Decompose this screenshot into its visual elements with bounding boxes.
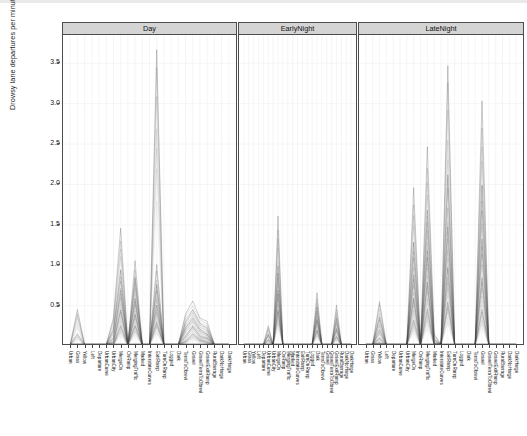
x-axis-tick-mark [322, 345, 323, 348]
x-axis-tick-mark [509, 345, 510, 348]
x-axis-tick-mark [128, 345, 129, 348]
x-axis-tick-label: Marked [431, 351, 436, 366]
x-axis-tick-label: MergeOn [275, 351, 280, 370]
x-axis-tick-mark [327, 345, 328, 348]
x-axis-tick-mark [178, 345, 179, 348]
x-axis-tick-mark [455, 345, 456, 348]
x-axis-tick-mark [393, 345, 394, 348]
x-axis-tick-mark [259, 345, 260, 348]
x-axis-tick-mark [496, 345, 497, 348]
x-axis-tick-mark [249, 345, 250, 348]
x-axis-tick-mark [475, 345, 476, 348]
lattice-panel-plot: Drowsy lane departures per minute 0.51.0… [0, 0, 527, 436]
x-axis-tick-label: GravelTerraToObrevi [486, 351, 491, 393]
y-axis-tick-label: 0.5 [26, 301, 60, 308]
x-axis-tick-mark [468, 345, 469, 348]
panel-latenight: LateNight [358, 22, 524, 345]
x-axis-tick-mark [307, 345, 308, 348]
x-axis-tick-label: Dark [314, 351, 319, 361]
x-axis-tick-label: Left [89, 351, 94, 359]
x-axis-tick-label: Yellow [377, 351, 382, 364]
x-axis-tick-mark [113, 345, 114, 348]
x-axis-tick-mark [283, 345, 284, 348]
x-axis-tick-mark [441, 345, 442, 348]
x-axis-tick-label: OnRamp [280, 351, 285, 369]
x-axis-tick-label: TerraToObrevi [183, 351, 188, 380]
x-axis-tick-label: Urban [67, 351, 72, 364]
x-axis-tick-label: DarkHarge [348, 351, 353, 373]
x-axis-tick-label: Marked [139, 351, 144, 366]
x-axis-tick-mark [332, 345, 333, 348]
window-top-edge [0, 0, 527, 3]
x-axis-tick-mark [503, 345, 504, 348]
x-axis-tick-mark [448, 345, 449, 348]
x-axis-tick-mark [278, 345, 279, 348]
x-axis-tick-label: MergingTraffic [425, 351, 430, 380]
x-axis-tick-mark [373, 345, 374, 348]
x-axis-tick-mark [99, 345, 100, 348]
panel-earlynight: EarlyNight [238, 22, 357, 345]
x-axis-tick-label: Gravel [479, 351, 484, 365]
x-axis-tick-label: UrbanCurve [103, 351, 108, 376]
x-axis-tick-mark [414, 345, 415, 348]
panel-svg [239, 35, 356, 344]
x-axis-tick-label: GravelTerraToObrevi [197, 351, 202, 393]
x-axis-tick-mark [380, 345, 381, 348]
x-axis-tick-label: RuralBarrage [212, 351, 217, 378]
x-axis-tick-mark [302, 345, 303, 348]
x-axis-tick-label: GravelExitRamp [493, 351, 498, 384]
x-axis-tick-label: ExitRamp [445, 351, 450, 371]
y-axis-tick-label: 2.0 [26, 179, 60, 186]
x-axis-tick-mark [434, 345, 435, 348]
x-axis-tick-label: UrbanCity [270, 351, 275, 371]
x-axis-tick-label: DarkNoHarge [343, 351, 348, 379]
y-axis-tick-mark [57, 143, 60, 144]
x-axis-tick-mark [186, 345, 187, 348]
x-axis-tick-mark [268, 345, 269, 348]
panel-svg [359, 35, 523, 344]
panel-plot-area [63, 35, 236, 344]
x-axis-tick-label: Departure [96, 351, 101, 371]
x-axis-tick-mark [229, 345, 230, 348]
x-axis-tick-mark [222, 345, 223, 348]
x-axis-tick-label: Logged [459, 351, 464, 366]
x-axis-tick-mark [516, 345, 517, 348]
x-axis-tick-mark [254, 345, 255, 348]
y-axis-tick-mark [57, 264, 60, 265]
x-axis-tick-label: TurnOnRamp [452, 351, 457, 379]
x-axis-tick-label: Dark [176, 351, 181, 361]
panel-strip-label: LateNight [359, 23, 523, 35]
y-axis-tick-label: 1.0 [26, 260, 60, 267]
panel-day: Day [62, 22, 237, 345]
x-axis-tick-mark [366, 345, 367, 348]
panel-strip-label: EarlyNight [239, 23, 356, 35]
x-axis-tick-mark [200, 345, 201, 348]
x-axis-tick-mark [92, 345, 93, 348]
x-axis-tick-mark [135, 345, 136, 348]
y-axis-tick-label: 2.5 [26, 139, 60, 146]
x-axis-tick-label: Urban [363, 351, 368, 364]
x-axis-tick-mark [150, 345, 151, 348]
x-axis-tick-label: GravelExitRamp [204, 351, 209, 384]
x-axis-tick-label: OnRamp [125, 351, 130, 369]
x-axis-tick-label: Dark [466, 351, 471, 361]
x-axis-tick-mark [214, 345, 215, 348]
x-axis-tick-label: TerraToObrevi [472, 351, 477, 380]
x-axis-tick-mark [482, 345, 483, 348]
y-axis-tick-mark [57, 305, 60, 306]
x-axis-tick-label: Gravel [190, 351, 195, 365]
x-axis-tick-mark [312, 345, 313, 348]
x-axis-tick-mark [427, 345, 428, 348]
x-axis-tick-label: Logged [309, 351, 314, 366]
x-axis-tick-mark [298, 345, 299, 348]
x-axis-tick-mark [273, 345, 274, 348]
x-axis-tick-label: MergeOn [118, 351, 123, 370]
x-axis-tick-mark [317, 345, 318, 348]
x-axis-tick-label: MergeOn [411, 351, 416, 370]
x-axis-tick-label: MergingTraffic [132, 351, 137, 380]
x-axis-tick-mark [85, 345, 86, 348]
x-axis-tick-mark [164, 345, 165, 348]
x-axis-tick-mark [121, 345, 122, 348]
x-axis-tick-label: Logged [168, 351, 173, 366]
y-axis-tick-mark [57, 224, 60, 225]
